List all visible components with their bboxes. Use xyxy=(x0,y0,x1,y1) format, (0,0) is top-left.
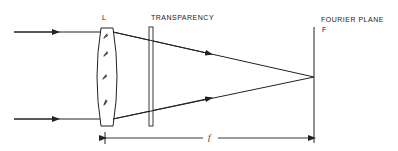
fourier-plane-label: FOURIER PLANE xyxy=(321,16,384,23)
fourier-optics-diagram: L TRANSPARENCY FOURIER PLANE F f xyxy=(0,0,398,151)
converging-ray-top xyxy=(113,32,314,77)
lens-label: L xyxy=(102,14,106,21)
converging-ray-bottom xyxy=(113,77,314,119)
lens xyxy=(97,28,117,126)
transparency-label: TRANSPARENCY xyxy=(151,14,214,21)
fourier-plane-symbol: F xyxy=(322,26,327,33)
focal-length-label: f xyxy=(208,133,211,142)
